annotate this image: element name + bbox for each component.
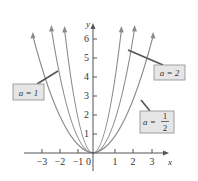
- y-ticks: 1 2 3 4 5 6 y: [84, 19, 97, 139]
- leader-line: [141, 100, 150, 111]
- y-tick-label: 4: [84, 71, 89, 82]
- label-a-one: a = 1: [19, 88, 39, 98]
- y-axis-label: y: [85, 19, 90, 29]
- y-tick-label: 5: [84, 52, 89, 63]
- parabola-family-chart: −3 −2 −1 0 1 2 3 x 1 2 3 4 5 6 y a = 1 a…: [0, 0, 198, 181]
- x-tick-label: 3: [150, 156, 155, 167]
- annotation-a-two: a = 2: [128, 50, 185, 80]
- x-ticks: −3 −2 −1 0 1 2 3 x: [37, 149, 172, 167]
- x-axis-label: x: [167, 157, 172, 167]
- axes: [24, 23, 169, 171]
- leader-line: [37, 71, 58, 84]
- label-a-two: a = 2: [160, 68, 180, 78]
- y-axis-arrow-icon: [91, 23, 96, 29]
- y-tick-label: 6: [84, 33, 89, 44]
- x-axis-arrow-icon: [163, 151, 169, 156]
- label-a-half-denominator: 2: [163, 123, 168, 133]
- y-tick-label: 2: [84, 109, 89, 120]
- x-tick-label: −1: [73, 156, 84, 167]
- label-a-half-numerator: 1: [163, 111, 168, 121]
- origin-label: 0: [86, 156, 91, 167]
- label-a-half-prefix: a =: [143, 117, 156, 127]
- x-tick-label: −3: [37, 156, 48, 167]
- x-tick-label: 2: [131, 156, 136, 167]
- x-tick-label: −2: [55, 156, 66, 167]
- annotation-a-half: a = 1 2: [140, 100, 174, 133]
- x-tick-label: 1: [113, 156, 118, 167]
- y-tick-label: 1: [84, 128, 89, 139]
- y-tick-label: 3: [84, 90, 89, 101]
